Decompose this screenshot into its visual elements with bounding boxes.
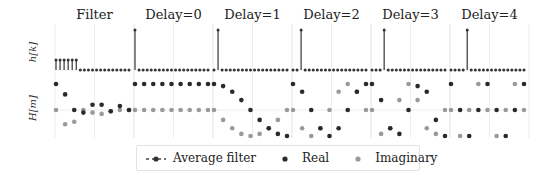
imag-point <box>239 132 244 137</box>
imag-point <box>327 108 332 113</box>
hk-point <box>265 69 268 72</box>
real-point <box>276 132 281 137</box>
hk-point <box>245 69 248 72</box>
hk-point <box>514 69 517 72</box>
real-point <box>458 108 463 113</box>
imag-point <box>291 108 296 113</box>
hk-point <box>328 69 331 72</box>
imag-point <box>415 98 420 103</box>
hk-point <box>474 69 477 72</box>
real-point <box>318 126 323 131</box>
real-point <box>379 98 384 103</box>
hk-point <box>257 69 260 72</box>
real-point <box>449 82 454 87</box>
hk-point <box>486 69 489 72</box>
impulse-response-row <box>55 29 526 72</box>
hk-point <box>308 69 311 72</box>
hk-point <box>91 69 94 72</box>
hk-point <box>403 69 406 72</box>
real-point <box>291 82 296 87</box>
hk-point <box>115 69 118 72</box>
hk-point <box>300 29 303 32</box>
panel-title: Delay=3 <box>382 7 439 22</box>
imag-point <box>467 108 472 113</box>
imag-point <box>169 108 174 113</box>
hk-point <box>286 69 289 72</box>
real-point <box>178 82 183 87</box>
hk-point <box>71 59 74 62</box>
hk-point <box>253 69 256 72</box>
imag-point <box>397 98 402 103</box>
hk-point <box>435 69 438 72</box>
panel-title: Delay=1 <box>224 7 281 22</box>
hk-point <box>324 69 327 72</box>
real-point <box>336 126 341 131</box>
hk-point <box>411 69 414 72</box>
hk-point <box>55 59 58 62</box>
imag-point <box>178 108 183 113</box>
hk-point <box>454 69 457 72</box>
average-filter-marker-icon <box>145 153 167 163</box>
real-point <box>406 108 411 113</box>
real-point <box>118 104 123 109</box>
hk-point <box>146 69 149 72</box>
hk-point <box>95 69 98 72</box>
hk-point <box>395 69 398 72</box>
imag-point <box>443 108 448 113</box>
real-point <box>397 132 402 137</box>
hk-point <box>67 59 70 62</box>
real-point <box>257 118 262 123</box>
real-point <box>494 108 499 113</box>
legend-label-average: Average filter <box>173 151 256 165</box>
hk-point <box>154 69 157 72</box>
imag-point <box>54 108 59 113</box>
imag-point <box>230 126 235 131</box>
imag-point <box>449 108 454 113</box>
hk-point <box>502 69 505 72</box>
hk-point <box>166 69 169 72</box>
hk-point <box>59 59 62 62</box>
real-point <box>169 82 174 87</box>
real-point <box>485 82 490 87</box>
hk-point <box>237 69 240 72</box>
hk-point <box>387 69 390 72</box>
real-point <box>388 126 393 131</box>
real-marker-icon <box>274 153 296 163</box>
hk-point <box>360 69 363 72</box>
imag-point <box>257 132 262 137</box>
real-point <box>63 92 68 97</box>
imag-point <box>212 108 217 113</box>
hk-point <box>229 69 232 72</box>
imag-point <box>142 108 147 113</box>
hk-point <box>217 29 220 32</box>
hk-point <box>383 29 386 32</box>
hk-point <box>478 69 481 72</box>
hk-point <box>241 69 244 72</box>
hk-point <box>490 69 493 72</box>
hk-point <box>142 69 145 72</box>
hk-point <box>506 69 509 72</box>
hk-point <box>63 59 66 62</box>
imag-point <box>434 132 439 137</box>
imag-point <box>476 82 481 87</box>
imag-point <box>63 122 68 127</box>
y-label-Hm: H[m] <box>27 95 38 122</box>
hk-point <box>304 69 307 72</box>
hk-point <box>158 69 161 72</box>
real-point <box>355 90 360 95</box>
hk-point <box>277 69 280 72</box>
real-point <box>230 90 235 95</box>
real-point <box>522 82 527 87</box>
real-point <box>187 82 192 87</box>
hk-point <box>198 69 201 72</box>
real-point <box>443 134 448 139</box>
real-point <box>434 118 439 123</box>
legend-item-imaginary: Imaginary <box>347 151 437 165</box>
imag-point <box>248 134 253 139</box>
hk-point <box>99 69 102 72</box>
imag-point <box>345 82 350 87</box>
real-point <box>424 90 429 95</box>
hk-point <box>466 29 469 32</box>
hk-point <box>221 69 224 72</box>
imag-point <box>187 108 192 113</box>
